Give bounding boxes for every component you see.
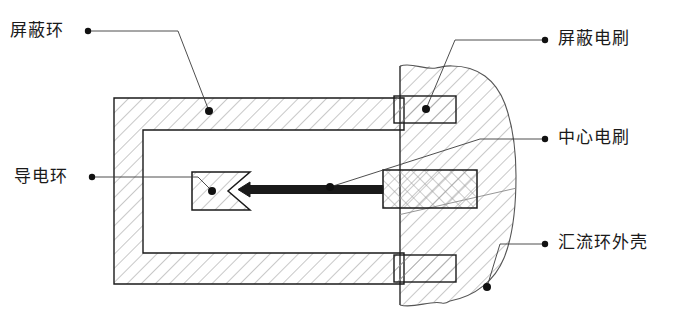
dot-conductive-ring-label (89, 174, 95, 180)
dot-conductive-ring-target (208, 187, 216, 195)
dot-slip-ring-housing-target (483, 283, 491, 291)
dot-shield-ring-target (205, 107, 213, 115)
shield-brush-bottom-body (394, 255, 456, 282)
slip-ring-cross-section-figure: 屏蔽环 屏蔽电刷 中心电刷 导电环 汇流环外壳 (0, 0, 678, 321)
center-brush-part (383, 170, 477, 208)
label-slip-ring-housing: 汇流环外壳 (558, 234, 648, 251)
dot-center-brush-label (542, 136, 548, 142)
center-brush-body (383, 170, 477, 208)
dot-shield-ring-label (85, 28, 91, 34)
dot-center-brush-target (326, 183, 334, 191)
brush-arm-shaft (238, 182, 383, 197)
center-brush-arm-part (238, 182, 383, 197)
label-conductive-ring: 导电环 (14, 168, 68, 185)
label-center-brush: 中心电刷 (558, 129, 630, 146)
diagram-canvas (0, 0, 678, 321)
dot-slip-ring-housing-label (542, 241, 548, 247)
label-shield-brush: 屏蔽电刷 (558, 30, 630, 47)
dot-shield-brush-target (422, 105, 430, 113)
label-shield-ring: 屏蔽环 (10, 22, 64, 39)
shield-brush-bottom-part (394, 255, 456, 282)
dot-shield-brush-label (542, 37, 548, 43)
